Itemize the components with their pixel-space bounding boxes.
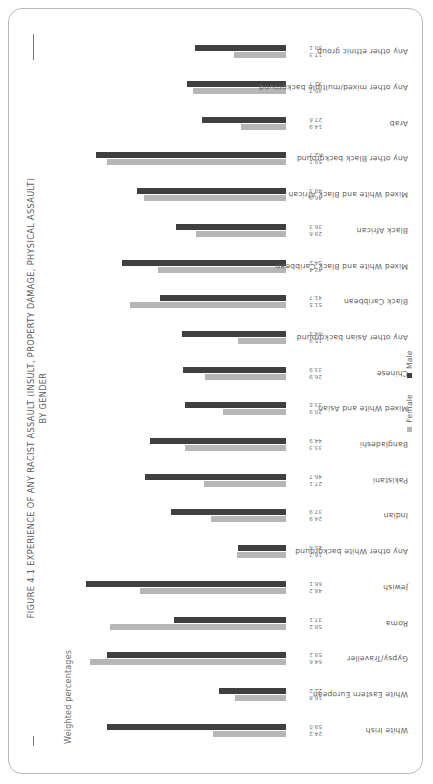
value-label-group: 26.933.9 <box>288 355 322 391</box>
category-label-text: Any other ethnic group <box>322 47 408 56</box>
figure-title-block: FIGURE 4.1 EXPERIENCE OF ANY RACIST ASSA… <box>26 66 50 730</box>
category-label-text: Arab <box>322 119 408 128</box>
category-label: Jewish <box>322 569 408 605</box>
bar-male <box>173 617 285 623</box>
bar-female <box>235 695 286 701</box>
bar-group <box>74 248 286 284</box>
category-label: Black Caribbean <box>322 284 408 320</box>
value-label-male: 37.9 <box>288 509 322 515</box>
bar-female <box>130 302 286 308</box>
category-label: Mixed White and Black African <box>322 177 408 213</box>
bar-male <box>107 724 286 730</box>
legend-item-female: Female <box>405 394 414 432</box>
value-label-male: 41.7 <box>288 295 322 301</box>
category-label: Gypsy/Traveller <box>322 641 408 677</box>
figure-title-line-1: FIGURE 4.1 EXPERIENCE OF ANY RACIST ASSA… <box>26 66 38 730</box>
bar-female <box>157 267 285 273</box>
bar-male <box>106 652 285 658</box>
category-label-text: Bangladeshi <box>322 440 408 449</box>
bar-female <box>90 659 286 665</box>
bar-group <box>74 320 286 356</box>
bar-group <box>74 498 286 534</box>
bar-group <box>74 70 286 106</box>
bar-group <box>74 569 286 605</box>
bar-male <box>202 117 286 123</box>
value-label-row: 24.259.016.822.264.659.258.237.148.266.1… <box>288 34 322 748</box>
bar-male <box>121 260 285 266</box>
category-label-text: Mixed White and Black Caribbean <box>322 262 408 271</box>
bar-group <box>74 605 286 641</box>
bar-group <box>74 462 286 498</box>
category-label-row: White IrishWhite Eastern EuropeanGypsy/T… <box>322 34 408 748</box>
category-label-text: Any other mixed/multiple background <box>322 83 408 92</box>
bar-female <box>196 231 286 237</box>
category-label-text: Indian <box>322 511 408 520</box>
bar-group <box>74 105 286 141</box>
legend-label-female: Female <box>405 394 414 423</box>
category-label: Any other Black background <box>322 141 408 177</box>
value-label-male: 44.9 <box>288 438 322 444</box>
value-label-female: 48.2 <box>288 588 322 594</box>
legend-swatch-female <box>407 427 412 432</box>
bar-group <box>74 355 286 391</box>
value-label-group: 14.927.6 <box>288 105 322 141</box>
value-label-group: 27.146.7 <box>288 462 322 498</box>
category-label: Any other mixed/multiple background <box>322 70 408 106</box>
bar-male <box>183 367 286 373</box>
figure-container: FIGURE 4.1 EXPERIENCE OF ANY RACIST ASSA… <box>16 20 416 762</box>
value-label-male: 46.7 <box>288 474 322 480</box>
plot-area <box>74 34 286 748</box>
bar-male <box>194 45 285 51</box>
bar-male <box>144 474 285 480</box>
category-label: White Eastern European <box>322 677 408 713</box>
chart-legend: Female Male <box>405 20 414 762</box>
value-label-female: 27.1 <box>288 481 322 487</box>
value-label-group: 24.259.0 <box>288 712 322 748</box>
figure-title-line-2: BY GENDER <box>37 66 49 730</box>
title-leading-dash <box>33 736 34 746</box>
value-label-female: 51.5 <box>288 302 322 308</box>
bar-group <box>74 284 286 320</box>
category-label-text: Gypsy/Traveller <box>322 654 408 663</box>
value-label-male: 33.9 <box>288 367 322 373</box>
category-label-text: Roma <box>322 619 408 628</box>
value-label-male: 59.0 <box>288 724 322 730</box>
legend-item-male: Male <box>405 350 414 378</box>
category-label: Chinese <box>322 355 408 391</box>
bar-female <box>222 409 285 415</box>
bar-group <box>74 641 286 677</box>
bar-female <box>140 588 286 594</box>
value-label-female: 58.2 <box>288 624 322 630</box>
bar-group <box>74 177 286 213</box>
bar-male <box>85 581 285 587</box>
bar-female <box>240 124 285 130</box>
category-label-text: Black African <box>322 226 408 235</box>
bar-male <box>218 688 285 694</box>
legend-swatch-male <box>407 373 412 378</box>
category-label-text: Any other White background <box>322 547 408 556</box>
bar-group <box>74 391 286 427</box>
category-label: Indian <box>322 498 408 534</box>
category-label-text: Mixed White and Black African <box>322 190 408 199</box>
bar-male <box>171 509 286 515</box>
value-label-male: 36.3 <box>288 224 322 230</box>
value-label-female: 20.9 <box>288 409 322 415</box>
value-label-group: 29.636.3 <box>288 212 322 248</box>
value-label-group: 51.541.7 <box>288 284 322 320</box>
value-label-male: 37.1 <box>288 617 322 623</box>
bar-female <box>233 52 285 58</box>
bar-male <box>181 331 285 337</box>
bar-group <box>74 427 286 463</box>
value-label-female: 24.9 <box>288 516 322 522</box>
bar-male <box>136 188 285 194</box>
category-label-text: Any other Black background <box>322 154 408 163</box>
bar-group <box>74 141 286 177</box>
bar-female <box>210 516 285 522</box>
category-label-text: Jewish <box>322 583 408 592</box>
value-label-group: 48.266.1 <box>288 569 322 605</box>
bar-male <box>96 152 286 158</box>
category-label: Mixed White and Black Caribbean <box>322 248 408 284</box>
category-label: Pakistani <box>322 462 408 498</box>
value-label-group: 24.937.9 <box>288 498 322 534</box>
category-label: Any other White background <box>322 534 408 570</box>
